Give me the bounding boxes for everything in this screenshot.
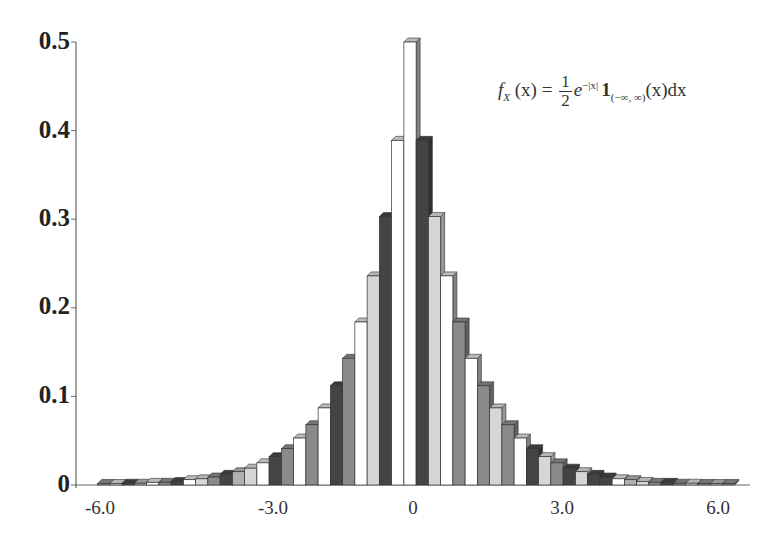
x-tick-label: 0 xyxy=(383,497,443,519)
x-tick-label: 3.0 xyxy=(532,497,592,519)
eq-indicator: 1 xyxy=(601,79,611,100)
y-tick-label: 0.4 xyxy=(0,116,70,144)
eq-exponent: −|x| xyxy=(582,79,598,91)
eq-tail: (x)dx xyxy=(645,79,686,100)
eq-exp-base: e xyxy=(574,79,582,100)
x-tick-label: -3.0 xyxy=(243,497,303,519)
eq-indicator-sub: (−∞, ∞) xyxy=(611,91,646,103)
eq-denominator: 2 xyxy=(559,92,572,110)
y-tick-label: 0.3 xyxy=(0,204,70,232)
density-equation: fX (x) = 12e−|x|1(−∞, ∞)(x)dx xyxy=(498,73,687,110)
x-tick-label: 6.0 xyxy=(688,497,748,519)
y-tick-label: 0 xyxy=(0,470,70,498)
y-tick-label: 0.2 xyxy=(0,292,70,320)
eq-f-sub: X xyxy=(503,91,510,103)
x-tick-label: -6.0 xyxy=(70,497,130,519)
eq-numerator: 1 xyxy=(559,73,572,92)
y-tick-label: 0.5 xyxy=(0,27,70,55)
eq-fraction: 12 xyxy=(559,73,572,110)
y-tick-label: 0.1 xyxy=(0,381,70,409)
eq-arg: (x) = xyxy=(510,79,557,100)
